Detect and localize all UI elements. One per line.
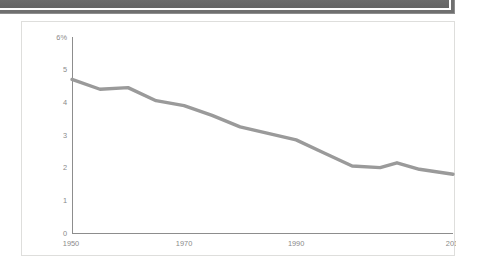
x-axis-tick-labels: 1950197019902018 <box>63 239 456 248</box>
toolbar-surface <box>0 0 449 8</box>
x-tick-label: 1970 <box>176 239 192 248</box>
y-tick-label: 5 <box>63 65 67 74</box>
x-tick-label: 2018 <box>446 239 456 248</box>
window-toolbar[interactable] <box>0 0 459 14</box>
y-tick-label: 6% <box>56 33 67 42</box>
y-tick-label: 4 <box>63 98 67 107</box>
y-axis-tick-labels: 6%543210 <box>56 33 67 238</box>
data-series-line <box>72 79 453 174</box>
x-tick-label: 1950 <box>63 239 79 248</box>
toolbar-inner-frame <box>0 0 451 10</box>
y-tick-label: 0 <box>63 229 67 238</box>
x-tick-label: 1990 <box>288 239 304 248</box>
line-chart: 6%543210 1950197019902018 <box>22 22 456 257</box>
toolbar-outer-frame <box>0 0 455 14</box>
y-tick-label: 2 <box>63 163 67 172</box>
y-tick-label: 3 <box>63 131 67 140</box>
y-tick-label: 1 <box>63 196 67 205</box>
chart-panel: 6%543210 1950197019902018 <box>21 21 455 256</box>
